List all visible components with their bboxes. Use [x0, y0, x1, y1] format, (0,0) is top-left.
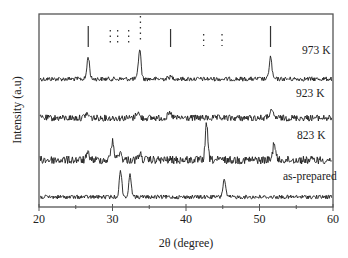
- plot-frame: [39, 14, 333, 207]
- trace-823-k: [40, 123, 332, 164]
- trace-as-prepared: [40, 170, 332, 199]
- trace-923-k: [40, 109, 332, 121]
- xrd-chart: [0, 0, 348, 258]
- reference-markers: [88, 16, 270, 47]
- xrd-traces: [40, 50, 332, 199]
- trace-973-k: [40, 50, 332, 81]
